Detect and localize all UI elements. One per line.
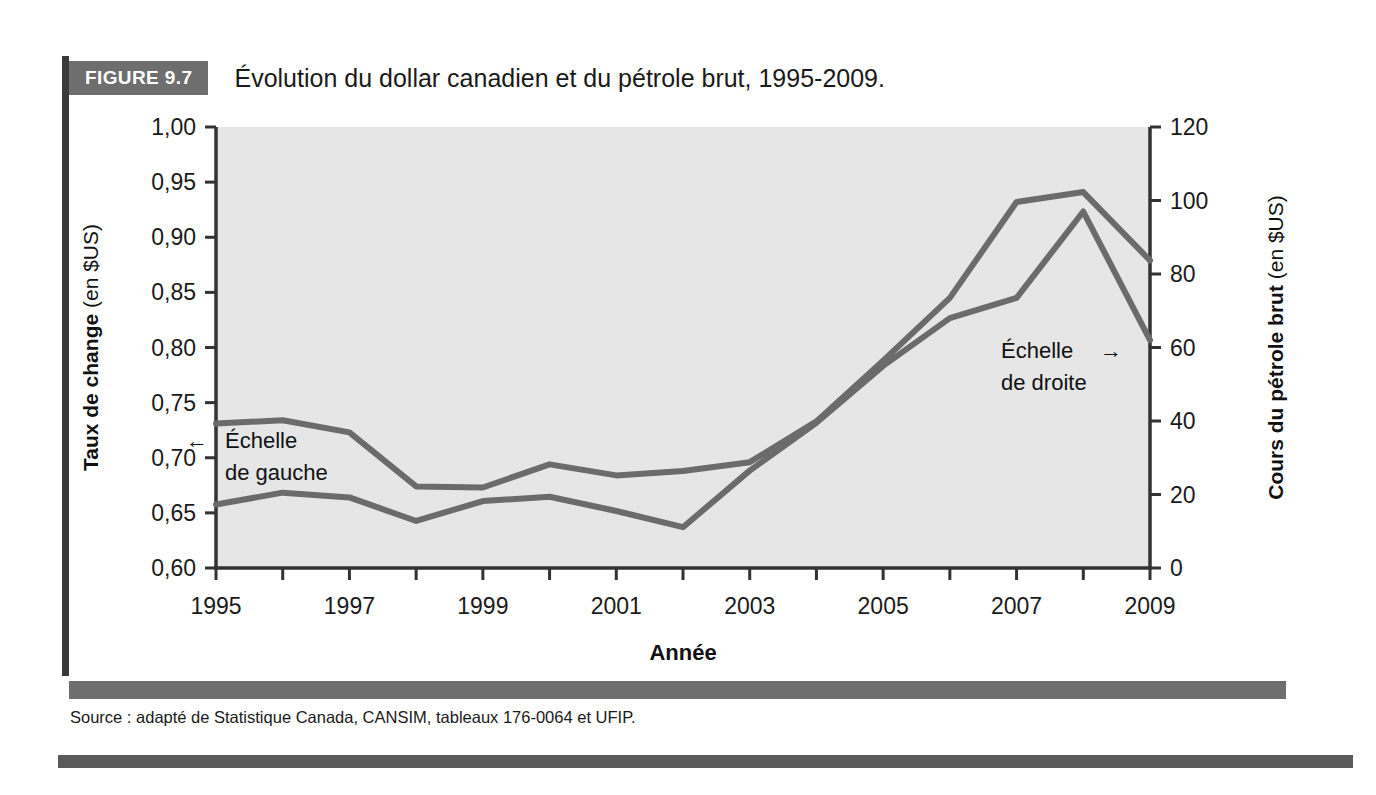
left-axis-tick-label: 0,85 <box>151 279 196 305</box>
left-scale-annotation-line2: de gauche <box>225 460 328 485</box>
right-axis-title: Cours du pétrole brut (en $US) <box>1264 195 1287 500</box>
right-axis-tick-label: 0 <box>1170 555 1183 581</box>
figure-source: Source : adapté de Statistique Canada, C… <box>70 708 636 727</box>
right-scale-annotation-line2: de droite <box>1001 370 1087 395</box>
right-axis-tick-label: 120 <box>1170 114 1208 140</box>
left-axis-tick-label: 0,95 <box>151 169 196 195</box>
figure-title: Évolution du dollar canadien et du pétro… <box>234 64 884 93</box>
right-axis-tick-label: 60 <box>1170 335 1196 361</box>
left-axis-tick-label: 0,80 <box>151 335 196 361</box>
right-axis-tick-label: 100 <box>1170 188 1208 214</box>
x-axis-title: Année <box>649 640 716 665</box>
figure-header: FIGURE 9.7 Évolution du dollar canadien … <box>69 58 885 98</box>
x-axis-tick-label: 2007 <box>991 593 1042 619</box>
left-scale-arrow-icon: ← <box>186 428 208 453</box>
left-axis-tick-label: 0,90 <box>151 224 196 250</box>
left-axis-tick-label: 0,65 <box>151 500 196 526</box>
right-axis-tick-label: 20 <box>1170 482 1196 508</box>
right-axis-tick-label: 80 <box>1170 261 1196 287</box>
chart-area: 0,600,650,700,750,800,850,900,951,000204… <box>0 96 1376 666</box>
left-axis-tick-label: 0,75 <box>151 390 196 416</box>
page-bottom-rule <box>58 755 1353 768</box>
left-scale-annotation-line1: Échelle <box>225 428 297 453</box>
x-axis-tick-label: 2001 <box>591 593 642 619</box>
figure-bottom-bar <box>69 681 1286 699</box>
left-axis-tick-label: 0,60 <box>151 555 196 581</box>
right-scale-arrow-icon: → <box>1100 338 1122 363</box>
figure-page: FIGURE 9.7 Évolution du dollar canadien … <box>0 0 1376 795</box>
x-axis-tick-label: 2005 <box>858 593 909 619</box>
left-axis-title: Taux de change (en $US) <box>79 224 102 471</box>
x-axis-tick-label: 2009 <box>1124 593 1175 619</box>
x-axis-tick-label: 1995 <box>190 593 241 619</box>
line-chart: 0,600,650,700,750,800,850,900,951,000204… <box>0 96 1376 666</box>
left-axis-tick-label: 1,00 <box>151 114 196 140</box>
right-axis-tick-label: 40 <box>1170 408 1196 434</box>
figure-badge: FIGURE 9.7 <box>69 61 208 95</box>
x-axis-tick-label: 2003 <box>724 593 775 619</box>
x-axis-tick-label: 1997 <box>324 593 375 619</box>
x-axis-tick-label: 1999 <box>457 593 508 619</box>
right-scale-annotation-line1: Échelle <box>1001 338 1073 363</box>
